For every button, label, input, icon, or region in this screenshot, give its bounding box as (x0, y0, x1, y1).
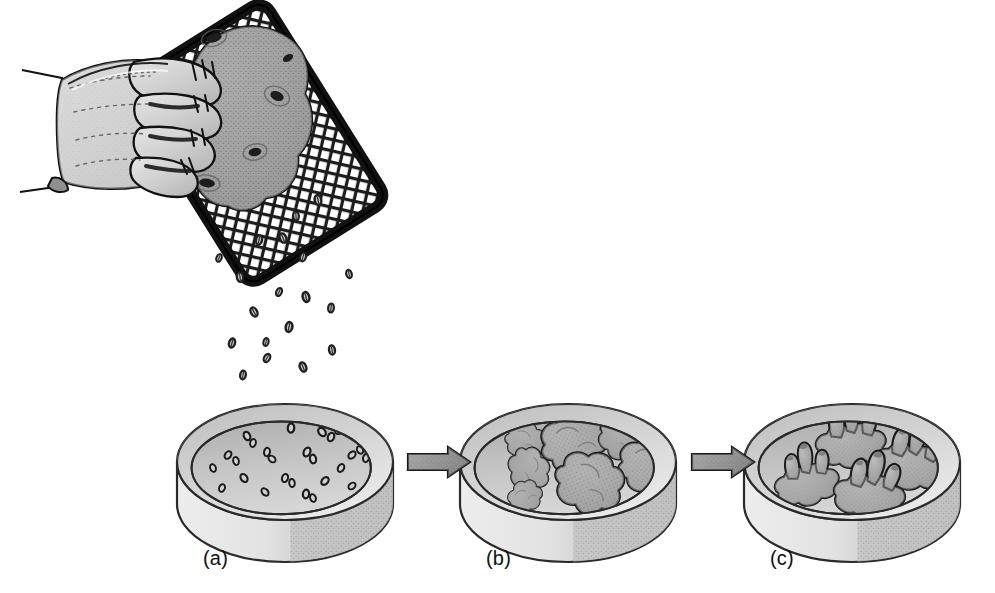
figure-canvas (0, 0, 995, 593)
plant-cell (309, 454, 317, 464)
falling-cell (236, 272, 244, 282)
falling-cell (314, 194, 322, 205)
falling-cell (255, 235, 263, 245)
falling-cell (263, 337, 270, 346)
panel-caption-c: (c) (770, 547, 794, 570)
plant-cell (302, 489, 309, 499)
falling-cell (328, 345, 336, 355)
panel-caption-b: (b) (486, 547, 511, 570)
petri-dish-c (744, 396, 960, 562)
plant-cell (287, 423, 294, 433)
falling-cell (240, 370, 247, 380)
tissue-culture-figure: (a) (b) (c) (0, 0, 995, 593)
falling-cell (328, 303, 334, 312)
hand-pressing-tuber (20, 59, 221, 197)
petri-dishes-row (177, 396, 960, 562)
plant-cell (289, 479, 296, 488)
falling-cell (293, 211, 299, 220)
sleeve (20, 70, 62, 192)
panel-caption-a: (a) (203, 547, 228, 570)
petri-dish-a (177, 404, 393, 562)
petri-dish-b (460, 402, 686, 562)
falling-cell (285, 321, 293, 332)
